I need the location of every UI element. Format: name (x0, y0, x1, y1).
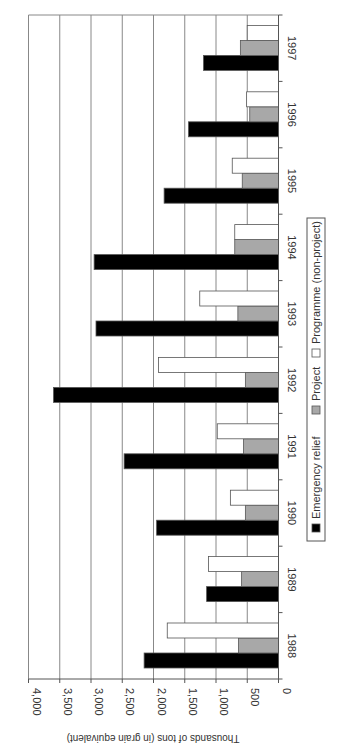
bar-project-1991 (244, 439, 279, 454)
bar-emergency-relief-1989 (207, 587, 279, 602)
category-axis-labels: 1988198919901991199219931994199519961997 (286, 36, 298, 658)
legend-swatch-1 (312, 406, 320, 414)
bar-project-1989 (242, 572, 279, 587)
category-label-1994: 1994 (286, 235, 298, 259)
bar-programme-non-project-1993 (200, 291, 279, 306)
gridlines (29, 15, 279, 679)
bar-emergency-relief-1993 (96, 321, 279, 336)
bars (54, 25, 279, 668)
bar-emergency-relief-1992 (54, 387, 279, 402)
bar-programme-non-project-1994 (235, 225, 279, 240)
value-axis-tick-labels: 05001,0001,5002,0002,5003,0003,5004,000 (31, 688, 293, 716)
category-label-1997: 1997 (286, 36, 298, 60)
value-tick-label: 4,000 (31, 688, 43, 716)
category-label-1989: 1989 (286, 567, 298, 591)
bar-project-1995 (242, 173, 278, 188)
bar-emergency-relief-1996 (189, 122, 279, 137)
legend-label-1: Project (310, 367, 322, 401)
value-tick-label: 0 (281, 688, 293, 694)
bar-programme-non-project-1997 (247, 25, 278, 40)
bar-project-1992 (245, 372, 278, 387)
category-label-1992: 1992 (286, 368, 298, 392)
legend-swatch-0 (312, 524, 320, 532)
category-label-1988: 1988 (286, 634, 298, 658)
category-label-1993: 1993 (286, 302, 298, 326)
bar-emergency-relief-1990 (157, 520, 279, 535)
legend-swatch-2 (312, 349, 320, 357)
bar-chart-svg: 05001,0001,5002,0002,5003,0003,5004,000 … (0, 0, 341, 756)
value-tick-label: 1,000 (218, 688, 230, 716)
legend-label-0: Emergency relief (310, 436, 322, 519)
bar-programme-non-project-1991 (217, 424, 278, 439)
bar-emergency-relief-1997 (204, 55, 279, 70)
category-label-1991: 1991 (286, 434, 298, 458)
bar-programme-non-project-1988 (167, 623, 278, 638)
bar-emergency-relief-1995 (164, 188, 278, 203)
value-axis-title: Thousands of tons (in grain equivalent) (67, 733, 240, 744)
value-tick-label: 500 (249, 688, 261, 706)
bar-emergency-relief-1988 (144, 653, 278, 668)
category-label-1996: 1996 (286, 102, 298, 126)
value-tick-label: 2,000 (156, 688, 168, 716)
value-tick-label: 3,000 (93, 688, 105, 716)
legend: Emergency reliefProjectProgramme (non-pr… (307, 218, 325, 541)
bar-programme-non-project-1989 (209, 557, 279, 572)
value-tick-label: 3,500 (62, 688, 74, 716)
bar-project-1997 (240, 40, 278, 55)
bar-programme-non-project-1996 (247, 92, 279, 107)
bar-project-1993 (238, 306, 279, 321)
bar-project-1988 (239, 638, 279, 653)
category-label-1990: 1990 (286, 501, 298, 525)
bar-emergency-relief-1994 (94, 255, 278, 270)
category-label-1995: 1995 (286, 169, 298, 193)
bar-emergency-relief-1991 (124, 454, 278, 469)
bar-programme-non-project-1992 (159, 357, 279, 372)
value-tick-label: 1,500 (187, 688, 199, 716)
bar-project-1990 (245, 505, 278, 520)
bar-programme-non-project-1995 (232, 158, 278, 173)
bar-project-1994 (235, 240, 279, 255)
value-tick-label: 2,500 (124, 688, 136, 716)
bar-programme-non-project-1990 (230, 490, 278, 505)
bar-project-1996 (250, 107, 279, 122)
legend-label-2: Programme (non-project) (310, 221, 322, 344)
